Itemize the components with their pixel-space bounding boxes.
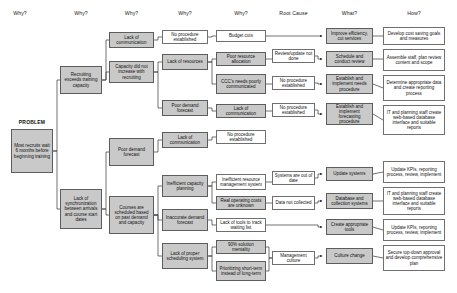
node-why2c[interactable]: Poor demand forecast xyxy=(109,138,154,166)
node-why4a[interactable]: Budget cuts xyxy=(216,30,266,42)
column-header-how: How? xyxy=(383,10,445,16)
node-how3[interactable]: Determine appropriate data and create re… xyxy=(383,75,445,101)
node-rc2[interactable]: No procedure established xyxy=(272,76,315,90)
rca-diagram-canvas: Why? Why? Why? Why? Why? Root Cause What… xyxy=(0,0,457,293)
node-why4f[interactable]: Inefficient resource management system xyxy=(216,174,266,190)
node-why4d[interactable]: Lack of communication xyxy=(216,104,266,118)
node-why2b[interactable]: Capacity did not increase with recruitin… xyxy=(109,61,154,83)
node-why2d[interactable]: Courses are scheduled based on past dema… xyxy=(109,196,154,234)
node-how7[interactable]: Update KPIs, reporting process, review, … xyxy=(383,219,445,241)
node-what4[interactable]: Establish and implement forecasting proc… xyxy=(326,103,373,125)
node-why3g[interactable]: Lack of proper scheduling system xyxy=(162,243,208,269)
node-why2a[interactable]: Lack of communication xyxy=(109,32,154,48)
node-why3f[interactable]: Inaccurate demand forecast xyxy=(162,209,208,231)
column-header-why-2: Why? xyxy=(60,10,102,16)
column-header-what: What? xyxy=(326,10,373,16)
node-why3b[interactable]: Lack of resources xyxy=(162,54,208,70)
node-how1[interactable]: Develop cost saving goals and measures xyxy=(383,27,445,45)
node-how6[interactable]: IT and planning staff create web-based d… xyxy=(383,187,445,215)
node-why4b[interactable]: Poor resource allocation xyxy=(216,52,266,66)
column-header-why-4: Why? xyxy=(162,10,208,16)
node-rc3[interactable]: No procedure established xyxy=(272,103,315,117)
node-what5[interactable]: Update systems xyxy=(326,167,373,181)
node-how2[interactable]: Assemble staff, plan review content and … xyxy=(383,49,445,71)
node-what2[interactable]: Schedule and conduct review xyxy=(326,51,373,67)
node-why4e[interactable]: No procedure established xyxy=(216,130,266,144)
node-what3[interactable]: Establish and implement needs procedure xyxy=(326,74,373,94)
node-why3a[interactable]: No procedure established xyxy=(162,30,208,44)
node-why3c[interactable]: Poor demand forecast xyxy=(162,100,208,116)
node-why4i[interactable]: 90% solution mentality xyxy=(216,240,266,254)
node-what6[interactable]: Database and collection systems xyxy=(326,193,373,209)
node-why1a[interactable]: Recruiting exceeds training capacity xyxy=(60,66,102,94)
node-why4h[interactable]: Lack of tools to track waiting list xyxy=(216,218,266,232)
node-rc5[interactable]: Data not collected xyxy=(272,196,315,210)
node-what7[interactable]: Create appropriate tools xyxy=(326,219,373,235)
node-how4[interactable]: IT and planning staff create web-based d… xyxy=(383,105,445,135)
node-how5[interactable]: Update KPIs, reporting process, review, … xyxy=(383,161,445,183)
node-problem[interactable]: Most recruits wait 6 months before begin… xyxy=(11,129,53,173)
node-why3e[interactable]: Inefficient capacity planning xyxy=(162,175,208,197)
node-what1[interactable]: Improve efficiency, cut services xyxy=(326,28,373,44)
node-why4j[interactable]: Prioritizing short-term instead of long-… xyxy=(216,261,266,281)
node-why1b[interactable]: Lack of synchronization between arrivals… xyxy=(60,189,102,229)
node-how8[interactable]: Secure top-down approval and develop com… xyxy=(383,245,445,271)
column-header-root-cause: Root Cause xyxy=(272,10,315,16)
node-what8[interactable]: Culture change xyxy=(326,248,373,264)
node-why3d[interactable]: Lack of communication xyxy=(162,132,208,148)
problem-label: PROBLEM xyxy=(11,119,53,125)
node-rc1[interactable]: Review/update not done xyxy=(272,49,315,63)
column-header-why-5: Why? xyxy=(216,10,266,16)
node-rc4[interactable]: Systems are out of date xyxy=(272,171,315,185)
node-why4g[interactable]: Real operating costs are unknown xyxy=(216,196,266,210)
column-header-why-1: Why? xyxy=(0,10,40,16)
node-rc6[interactable]: Management culture xyxy=(272,251,315,265)
node-why4c[interactable]: CCC's needs poorly communicated xyxy=(216,74,266,94)
column-header-why-3: Why? xyxy=(109,10,154,16)
